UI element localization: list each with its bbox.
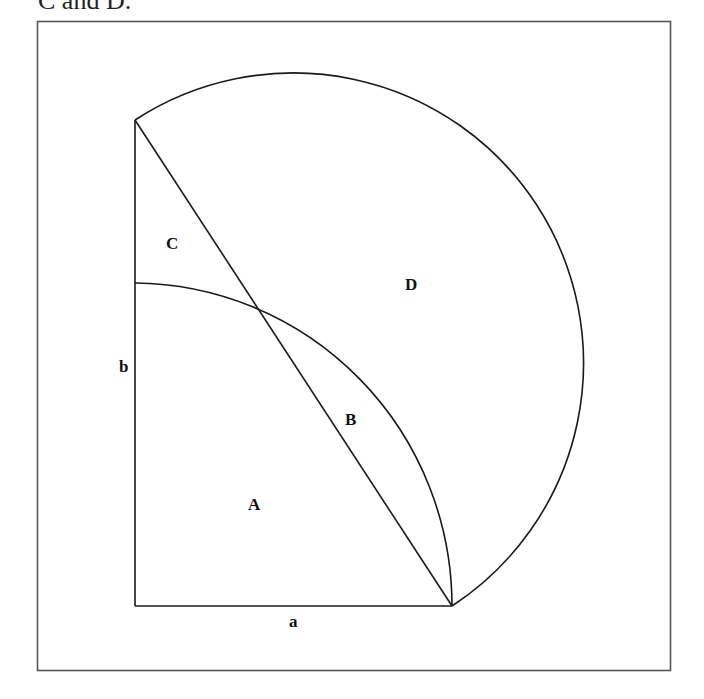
geometry-diagram: C D B A b a	[0, 0, 704, 699]
region-label-b: B	[345, 410, 356, 429]
side-label-b: b	[119, 357, 128, 376]
region-label-a: A	[248, 495, 261, 514]
region-label-c: C	[166, 234, 178, 253]
hypotenuse	[135, 120, 452, 606]
semicircle-arc	[135, 73, 584, 606]
diagram-frame	[38, 22, 671, 671]
side-label-a: a	[289, 612, 298, 631]
quarter-circle-arc	[135, 283, 452, 606]
region-label-d: D	[405, 275, 417, 294]
